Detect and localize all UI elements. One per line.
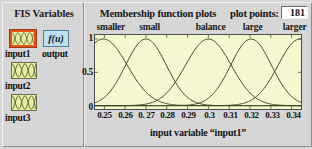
mf-label-balance[interactable]: balance <box>196 22 226 32</box>
plot-points-input[interactable]: 181 <box>281 6 308 19</box>
mf-label-larger[interactable]: larger <box>283 22 307 32</box>
x-axis-tick: 0.3 <box>204 110 214 120</box>
fu-icon: f(u) <box>48 34 64 44</box>
mf-plot-axes[interactable]: 00.510.250.260. 270.280.290.30.310.320.3… <box>94 34 302 110</box>
y-axis-tick: 1 <box>89 33 93 43</box>
fis-variable-label-input2: input2 <box>5 81 30 91</box>
x-axis-tick: 0.28 <box>160 110 175 120</box>
membership-curves-icon <box>12 63 36 78</box>
fis-variable-input3[interactable] <box>11 94 37 111</box>
x-axis-tick: 0.25 <box>97 110 112 120</box>
y-axis-tick: 0.5 <box>82 67 93 77</box>
x-axis-tick: 0.34 <box>286 110 301 120</box>
fis-variable-label-output: output <box>42 49 68 59</box>
y-axis-tick: 0 <box>89 102 93 112</box>
fis-variable-label-input3: input3 <box>5 113 30 123</box>
x-axis-tick: 0.31 <box>223 110 238 120</box>
mf-editor-window: FIS Variables input1 f(u) output <box>0 0 312 149</box>
plot-panel-title: Membership function plots <box>89 8 227 19</box>
mf-label-small[interactable]: small <box>139 22 160 32</box>
fis-variable-output[interactable]: f(u) <box>43 30 69 47</box>
fis-variables-title: FIS Variables <box>6 8 82 19</box>
membership-curves-icon <box>12 95 36 110</box>
x-axis-tick: 0.32 <box>244 110 259 120</box>
membership-curves-icon <box>12 32 34 45</box>
x-axis-tick: 0.26 <box>118 110 133 120</box>
mf-name-row: smallersmallbalancelargelarger <box>94 22 311 34</box>
x-axis-tick: 0.33 <box>265 110 280 120</box>
plot-points-label: plot points: <box>230 8 279 19</box>
membership-plot-panel: Membership function plots plot points: 1… <box>84 2 312 147</box>
x-axis-tick: 0.29 <box>181 110 196 120</box>
mf-label-smaller[interactable]: smaller <box>96 22 125 32</box>
x-axis-label: input variable “input1” <box>89 127 307 138</box>
fis-variable-input1[interactable] <box>10 30 36 47</box>
x-axis-tick: 0. 27 <box>138 110 155 120</box>
fis-variables-panel: FIS Variables input1 f(u) output <box>2 2 84 147</box>
fis-variable-label-input1: input1 <box>5 49 30 59</box>
mf-label-large[interactable]: large <box>243 22 263 32</box>
fis-variable-input2[interactable] <box>11 62 37 79</box>
membership-curves-plot <box>95 35 301 109</box>
